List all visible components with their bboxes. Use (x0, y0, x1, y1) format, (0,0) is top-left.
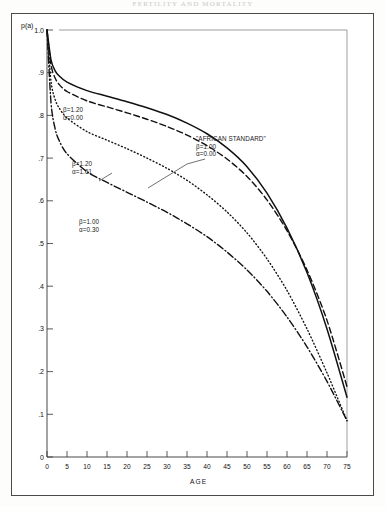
annotation-african-standard: "AFRICAN STANDARD" β=1.00 α=0.00 (196, 135, 266, 158)
svg-text:40: 40 (203, 463, 211, 470)
svg-text:75: 75 (343, 463, 351, 470)
annotation-beta120-alpha161: β=1.20 α=1.61 (72, 160, 92, 175)
svg-text:50: 50 (243, 463, 251, 470)
annotation-beta120-alpha000: β=1.20 α=0.00 (63, 106, 83, 121)
annotation-line-beta: β=1.00 (196, 143, 266, 151)
figure-page: FERTILITY AND MORTALITY (0, 0, 386, 507)
curve-african-standard (47, 30, 347, 397)
svg-text:10: 10 (83, 463, 91, 470)
svg-text:60: 60 (283, 463, 291, 470)
x-tick-labels: 0 5 10 15 20 25 30 35 40 45 50 55 60 65 … (45, 463, 351, 470)
svg-text:.9: .9 (38, 69, 44, 76)
svg-text:.5: .5 (38, 240, 44, 247)
y-tick-labels: 1.0 .9 .8 .7 .6 .5 .4 .3 .2 .1 0 (34, 27, 44, 461)
svg-text:.4: .4 (38, 283, 44, 290)
svg-text:.1: .1 (38, 411, 44, 418)
svg-text:15: 15 (103, 463, 111, 470)
leader-line-beta120-alpha161 (99, 173, 112, 181)
x-axis-ticks (47, 451, 347, 457)
line-chart-plot: 1.0 .9 .8 .7 .6 .5 .4 .3 .2 .1 0 0 5 10 … (11, 13, 374, 496)
annotation-line-beta: β=1.20 (72, 160, 92, 168)
annotation-line-alpha: α=0.00 (63, 114, 83, 122)
svg-text:.3: .3 (38, 325, 44, 332)
svg-text:.2: .2 (38, 368, 44, 375)
svg-text:0: 0 (45, 463, 49, 470)
svg-text:30: 30 (163, 463, 171, 470)
annotation-beta100-alpha030: β=1.00 α=0.30 (79, 218, 99, 233)
svg-text:70: 70 (323, 463, 331, 470)
svg-text:65: 65 (303, 463, 311, 470)
svg-text:1.0: 1.0 (34, 27, 44, 34)
curve-beta120-alpha000 (47, 30, 347, 387)
y-axis-label: p(a) (21, 22, 33, 29)
x-axis-label: AGE (190, 478, 207, 485)
svg-text:0: 0 (40, 454, 44, 461)
annotation-line-alpha: α=0.30 (79, 226, 99, 234)
svg-text:20: 20 (123, 463, 131, 470)
annotation-line-title: "AFRICAN STANDARD" (196, 135, 266, 143)
annotation-line-alpha: α=0.00 (196, 150, 266, 158)
annotation-line-beta: β=1.20 (63, 106, 83, 114)
svg-text:.6: .6 (38, 197, 44, 204)
svg-text:35: 35 (183, 463, 191, 470)
svg-text:.7: .7 (38, 155, 44, 162)
annotation-line-alpha: α=1.61 (72, 168, 92, 176)
svg-text:5: 5 (65, 463, 69, 470)
svg-text:55: 55 (263, 463, 271, 470)
svg-text:25: 25 (143, 463, 151, 470)
annotation-line-beta: β=1.00 (79, 218, 99, 226)
svg-text:.8: .8 (38, 112, 44, 119)
running-head: FERTILITY AND MORTALITY (0, 0, 386, 11)
svg-text:45: 45 (223, 463, 231, 470)
